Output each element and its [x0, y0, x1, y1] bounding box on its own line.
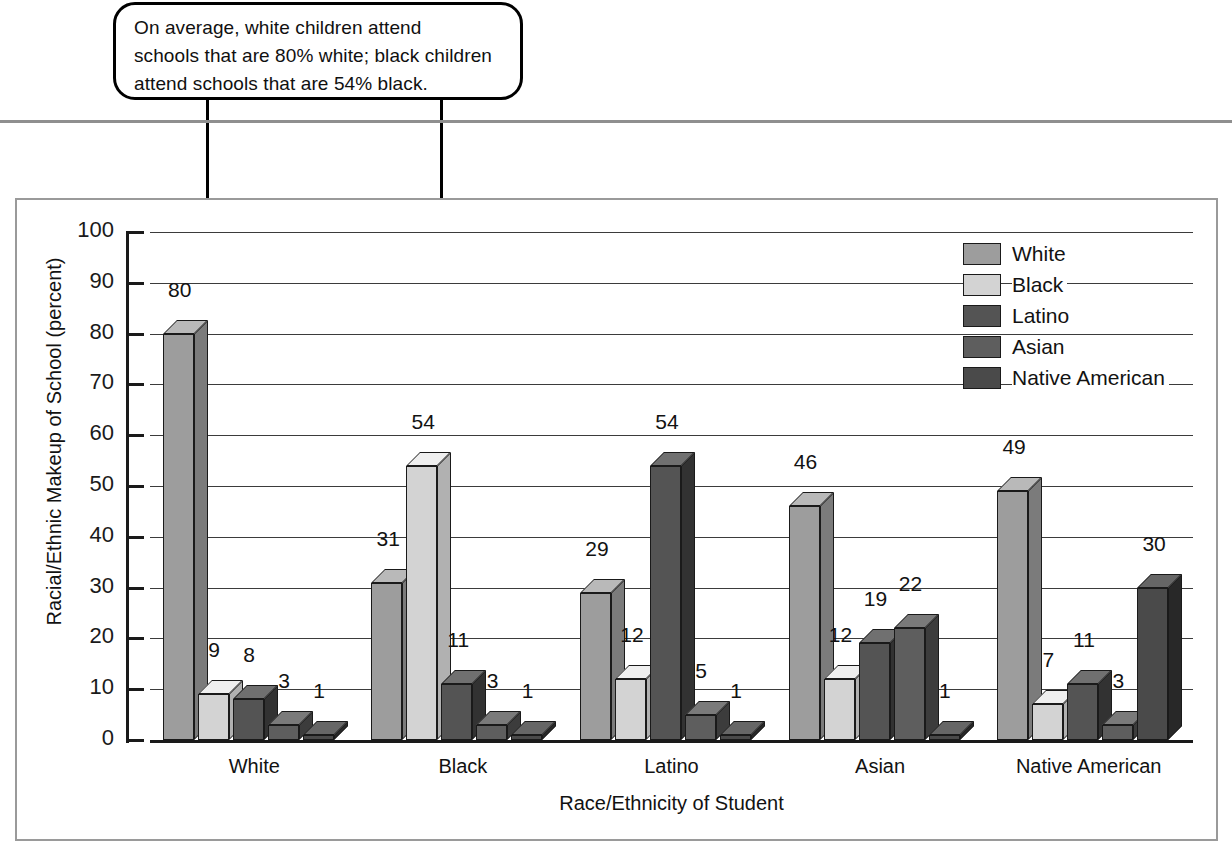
legend-item-black[interactable]: Black: [963, 269, 1203, 300]
bar-front-face: [476, 725, 507, 740]
y-axis-label: 30: [58, 573, 114, 599]
bar-front-face: [303, 735, 334, 740]
legend-label: White: [1012, 242, 1070, 266]
bar-value-label: 30: [1142, 532, 1165, 556]
bar[interactable]: 1: [511, 735, 542, 740]
legend-label: Asian: [1012, 335, 1069, 359]
legend-swatch: [963, 243, 1001, 265]
bar[interactable]: 7: [1032, 704, 1063, 740]
bar[interactable]: 8: [233, 699, 264, 740]
legend-label: Black: [1012, 273, 1067, 297]
y-axis-tick: [126, 587, 144, 590]
bar[interactable]: 31: [371, 583, 402, 740]
bar-value-label: 3: [1113, 669, 1125, 693]
bar[interactable]: 12: [824, 679, 855, 740]
y-axis-tick: [126, 688, 144, 691]
bar[interactable]: 1: [720, 735, 751, 740]
bar[interactable]: 3: [476, 725, 507, 740]
bar-front-face: [685, 715, 716, 740]
bar[interactable]: 12: [615, 679, 646, 740]
bar-side-face: [925, 614, 939, 740]
bar-front-face: [511, 735, 542, 740]
bar-front-face: [198, 694, 229, 740]
y-axis-tick: [126, 333, 144, 336]
y-axis-tick: [126, 536, 144, 539]
bar-value-label: 8: [243, 643, 255, 667]
callout-line-3: attend schools that are 54% black.: [134, 70, 504, 98]
bar-value-label: 1: [730, 679, 742, 703]
x-axis-group-label: Black: [359, 755, 568, 778]
bar-front-face: [1137, 588, 1168, 740]
bar[interactable]: 11: [1067, 684, 1098, 740]
x-axis-group-label: Latino: [567, 755, 776, 778]
bar-front-face: [720, 735, 751, 740]
legend-item-latino[interactable]: Latino: [963, 300, 1203, 331]
bar-value-label: 54: [655, 410, 678, 434]
bar[interactable]: 1: [303, 735, 334, 740]
callout-box: On average, white children attend school…: [113, 2, 523, 100]
bar-front-face: [371, 583, 402, 740]
x-axis-group-label: White: [150, 755, 359, 778]
bar[interactable]: 46: [789, 506, 820, 740]
y-axis-tick: [126, 383, 144, 386]
bar-front-face: [650, 466, 681, 740]
bar-front-face: [997, 491, 1028, 740]
bar[interactable]: 9: [198, 694, 229, 740]
y-axis-label: 50: [58, 471, 114, 497]
bar-value-label: 1: [313, 679, 325, 703]
chart-legend: WhiteBlackLatinoAsianNative American: [963, 238, 1203, 393]
y-axis-label: 20: [58, 623, 114, 649]
y-axis-label: 40: [58, 522, 114, 548]
bar[interactable]: 54: [650, 466, 681, 740]
y-axis-label: 70: [58, 369, 114, 395]
header-divider: [0, 120, 1232, 123]
gridline: [150, 740, 1193, 743]
bar-value-label: 7: [1043, 648, 1055, 672]
bar-value-label: 11: [447, 628, 469, 652]
y-axis-label: 10: [58, 674, 114, 700]
y-axis-label: 90: [58, 268, 114, 294]
bar-front-face: [268, 725, 299, 740]
bar[interactable]: 5: [685, 715, 716, 740]
bar[interactable]: 30: [1137, 588, 1168, 740]
bar-front-face: [859, 643, 890, 740]
bar-value-label: 1: [522, 679, 534, 703]
bar-front-face: [824, 679, 855, 740]
bar-value-label: 54: [412, 410, 435, 434]
bar-front-face: [1067, 684, 1098, 740]
bar[interactable]: 22: [894, 628, 925, 740]
legend-item-asian[interactable]: Asian: [963, 331, 1203, 362]
bar-value-label: 22: [899, 572, 922, 596]
y-axis-label: 60: [58, 420, 114, 446]
bar-value-label: 19: [864, 587, 887, 611]
y-axis-tick: [126, 231, 144, 234]
bar-value-label: 3: [278, 669, 290, 693]
y-axis-tick: [126, 485, 144, 488]
bar[interactable]: 54: [406, 466, 437, 740]
bar[interactable]: 49: [997, 491, 1028, 740]
bar-value-label: 46: [794, 450, 817, 474]
bar[interactable]: 29: [580, 593, 611, 740]
bar[interactable]: 3: [268, 725, 299, 740]
gridline: [150, 435, 1193, 436]
legend-item-white[interactable]: White: [963, 238, 1203, 269]
bar[interactable]: 3: [1102, 725, 1133, 740]
bar[interactable]: 11: [441, 684, 472, 740]
bar[interactable]: 19: [859, 643, 890, 740]
legend-label: Latino: [1012, 304, 1073, 328]
y-axis-label: 80: [58, 319, 114, 345]
bar-front-face: [441, 684, 472, 740]
x-axis-group-label: Asian: [776, 755, 985, 778]
y-axis-tick: [126, 282, 144, 285]
bar-front-face: [929, 735, 960, 740]
legend-label: Native American: [1012, 366, 1169, 390]
legend-item-native-american[interactable]: Native American: [963, 362, 1203, 393]
bar[interactable]: 1: [929, 735, 960, 740]
bar-value-label: 80: [168, 278, 191, 302]
bar-value-label: 3: [487, 669, 499, 693]
bar-side-face: [194, 320, 208, 740]
bar-side-face: [681, 452, 695, 740]
bar-value-label: 1: [939, 679, 951, 703]
gridline: [150, 232, 1193, 233]
bar[interactable]: 80: [163, 334, 194, 740]
